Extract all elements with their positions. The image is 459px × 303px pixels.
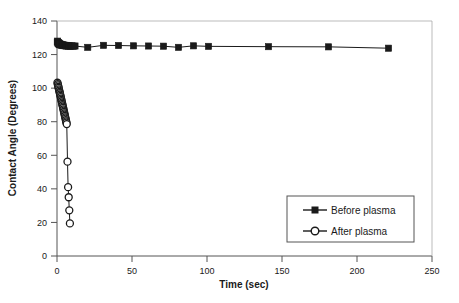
x-axis-ticks xyxy=(57,256,432,262)
series-before-plasma xyxy=(54,38,391,51)
legend-item-label: Before plasma xyxy=(331,205,396,216)
x-axis-tick-labels: 050100150200250 xyxy=(54,266,439,276)
data-point-marker xyxy=(175,44,181,50)
x-tick-label: 100 xyxy=(199,266,214,276)
data-point-marker xyxy=(85,44,91,50)
data-point-marker xyxy=(160,43,166,49)
data-point-marker xyxy=(66,207,73,214)
data-point-marker xyxy=(190,43,196,49)
y-axis-title: Contact Angle (Degrees) xyxy=(7,80,18,196)
open-circle-icon xyxy=(311,227,319,235)
data-point-marker xyxy=(145,43,151,49)
y-tick-label: 20 xyxy=(37,218,47,228)
data-point-marker xyxy=(65,184,72,191)
x-tick-label: 200 xyxy=(349,266,364,276)
y-tick-label: 140 xyxy=(32,16,47,26)
legend-item-label: After plasma xyxy=(331,226,388,237)
y-tick-label: 100 xyxy=(32,83,47,93)
data-point-marker xyxy=(115,42,121,48)
data-point-marker xyxy=(385,45,391,51)
contact-angle-chart: 020406080100120140 050100150200250 Time … xyxy=(0,0,459,303)
y-tick-label: 120 xyxy=(32,50,47,60)
y-tick-label: 60 xyxy=(37,151,47,161)
x-tick-label: 150 xyxy=(274,266,289,276)
y-tick-label: 40 xyxy=(37,184,47,194)
data-point-marker xyxy=(325,44,331,50)
y-axis-ticks xyxy=(51,21,57,256)
x-tick-label: 0 xyxy=(54,266,59,276)
data-point-marker xyxy=(63,121,70,128)
y-axis-tick-labels: 020406080100120140 xyxy=(32,16,47,261)
x-tick-label: 50 xyxy=(127,266,137,276)
x-axis-title: Time (sec) xyxy=(219,279,268,290)
data-point-marker xyxy=(64,158,71,165)
data-point-marker xyxy=(100,42,106,48)
y-tick-label: 80 xyxy=(37,117,47,127)
chart-legend: Before plasmaAfter plasma xyxy=(287,196,414,242)
data-point-marker xyxy=(66,220,73,227)
series-line xyxy=(57,41,388,48)
data-point-marker xyxy=(205,43,211,49)
data-point-marker xyxy=(265,44,271,50)
x-tick-label: 250 xyxy=(424,266,439,276)
data-point-marker xyxy=(130,43,136,49)
filled-square-icon xyxy=(312,207,319,214)
y-tick-label: 0 xyxy=(42,251,47,261)
chart-container: 020406080100120140 050100150200250 Time … xyxy=(0,0,459,303)
data-point-marker xyxy=(65,194,72,201)
data-point-marker xyxy=(72,43,78,49)
